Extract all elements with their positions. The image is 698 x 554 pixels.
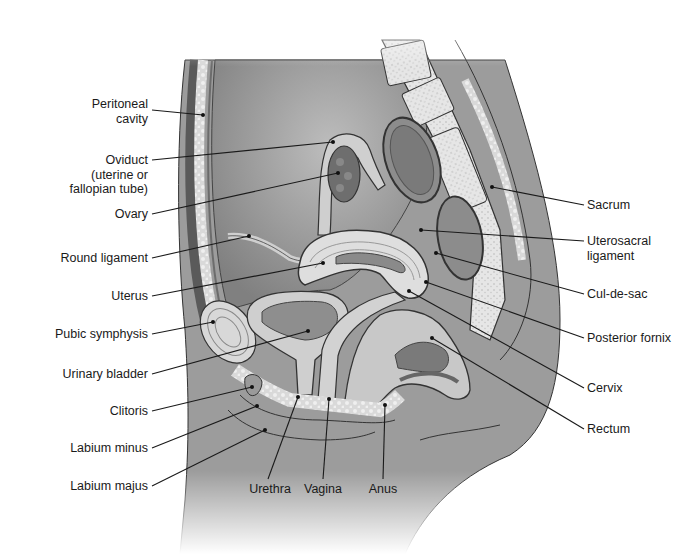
leader-line-cul-de-sac: [436, 253, 584, 294]
leader-dot-oviduct: [331, 140, 335, 144]
leader-line-uterus: [152, 263, 323, 296]
label-peritoneal-cavity: Peritoneal cavity: [92, 97, 148, 126]
leader-dot-urethra: [296, 395, 300, 399]
leader-dot-labium-majus: [263, 428, 267, 432]
label-ovary: Ovary: [115, 207, 148, 222]
leader-dot-anus: [383, 403, 387, 407]
leader-line-urinary-bladder: [152, 331, 308, 374]
leader-dot-round-ligament: [247, 234, 251, 238]
leader-line-oviduct: [152, 142, 333, 160]
label-round-ligament: Round ligament: [60, 251, 148, 266]
label-sacrum: Sacrum: [587, 198, 630, 213]
leader-dot-cervix: [407, 289, 411, 293]
label-urethra: Urethra: [245, 482, 295, 497]
leader-line-peritoneal-cavity: [152, 110, 203, 115]
leader-line-rectum: [432, 338, 584, 429]
leader-dot-vagina: [327, 397, 331, 401]
leader-line-pubic-symphysis: [152, 322, 213, 334]
label-posterior-fornix: Posterior fornix: [587, 331, 671, 346]
leader-line-urethra: [268, 397, 298, 479]
label-uterosacral-ligament: Uterosacral ligament: [587, 234, 651, 263]
leader-dot-sacrum: [490, 185, 494, 189]
leader-dot-cul-de-sac: [434, 251, 438, 255]
leader-line-sacrum: [492, 187, 584, 205]
label-pubic-symphysis: Pubic symphysis: [55, 327, 148, 342]
leader-dot-clitoris: [250, 385, 254, 389]
label-anus: Anus: [363, 482, 403, 497]
anatomy-figure: Peritoneal cavity Oviduct (uterine or fa…: [0, 0, 698, 554]
leader-line-vagina: [323, 399, 329, 479]
leader-dot-ovary: [336, 171, 340, 175]
leader-line-round-ligament: [152, 236, 249, 258]
leader-line-clitoris: [152, 387, 252, 411]
label-uterus: Uterus: [111, 289, 148, 304]
leader-line-posterior-fornix: [426, 282, 584, 338]
leader-line-ovary: [152, 173, 338, 214]
leader-lines: [0, 0, 698, 554]
label-cul-de-sac: Cul-de-sac: [587, 287, 647, 302]
leader-dot-posterior-fornix: [424, 280, 428, 284]
leader-dot-urinary-bladder: [306, 329, 310, 333]
leader-dot-uterosacral-ligament: [419, 228, 423, 232]
leader-line-anus: [383, 405, 385, 479]
label-oviduct: Oviduct (uterine or fallopian tube): [69, 153, 148, 197]
leader-dot-labium-minus: [255, 404, 259, 408]
leader-dot-peritoneal-cavity: [201, 113, 205, 117]
label-labium-minus: Labium minus: [70, 441, 148, 456]
label-cervix: Cervix: [587, 381, 622, 396]
label-vagina: Vagina: [300, 482, 346, 497]
leader-dot-uterus: [321, 261, 325, 265]
label-clitoris: Clitoris: [110, 404, 148, 419]
leader-line-labium-majus: [152, 430, 265, 486]
label-urinary-bladder: Urinary bladder: [63, 367, 148, 382]
label-labium-majus: Labium majus: [70, 479, 148, 494]
leader-dot-pubic-symphysis: [211, 320, 215, 324]
leader-dot-rectum: [430, 336, 434, 340]
label-rectum: Rectum: [587, 422, 630, 437]
leader-line-uterosacral-ligament: [421, 230, 584, 241]
